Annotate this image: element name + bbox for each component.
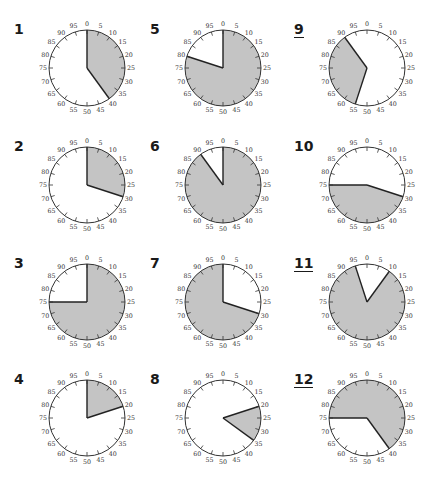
tick-label: 35 [399,324,407,331]
tick-label: 95 [69,256,77,263]
tick-label: 50 [219,458,227,465]
tick-label: 35 [255,90,263,97]
tick-label: 45 [233,223,241,230]
tick-label: 65 [47,90,55,97]
tick-label: 60 [337,450,345,457]
tick-label: 90 [337,146,345,153]
tick-label: 45 [97,340,105,347]
tick-label: 95 [205,22,213,29]
dial-graphic: 05101520253035404550556065707580859095 [14,139,159,257]
tick-label: 35 [255,440,263,447]
dial-12: 1205101520253035404550556065707580859095 [294,372,437,483]
tick-label: 40 [109,450,117,457]
tick-label: 75 [319,414,327,421]
tick-label: 30 [405,78,413,85]
tick-label: 70 [41,312,49,319]
tick-label: 50 [363,225,371,232]
tick-label: 70 [321,195,329,202]
tick-label: 45 [233,456,241,463]
tick-label: 60 [337,100,345,107]
tick-label: 70 [177,428,185,435]
tick-label: 25 [263,181,271,188]
tick-label: 30 [405,195,413,202]
tick-label: 90 [57,29,65,36]
tick-label: 20 [405,401,413,408]
tick-label: 80 [41,401,49,408]
tick-label: 20 [405,168,413,175]
tick-label: 75 [175,414,183,421]
tick-label: 70 [321,312,329,319]
tick-label: 15 [119,38,127,45]
tick-label: 80 [177,401,185,408]
tick-label: 55 [349,340,357,347]
tick-label: 10 [109,146,117,153]
tick-label: 20 [125,401,133,408]
tick-label: 45 [233,340,241,347]
tick-label: 15 [399,155,407,162]
tick-label: 25 [263,298,271,305]
tick-label: 40 [109,100,117,107]
tick-label: 45 [377,456,385,463]
tick-label: 15 [119,155,127,162]
tick-label: 5 [379,139,383,146]
tick-label: 70 [41,195,49,202]
tick-label: 55 [69,340,77,347]
tick-label: 65 [327,440,335,447]
tick-label: 70 [177,195,185,202]
tick-label: 5 [99,256,103,263]
tick-label: 80 [321,401,329,408]
tick-label: 20 [125,168,133,175]
tick-label: 60 [193,100,201,107]
tick-label: 0 [365,20,369,27]
tick-label: 65 [47,324,55,331]
tick-label: 90 [337,263,345,270]
tick-label: 15 [399,272,407,279]
tick-label: 55 [205,223,213,230]
tick-label: 15 [255,388,263,395]
tick-label: 10 [109,263,117,270]
tick-label: 20 [125,51,133,58]
tick-label: 25 [407,414,415,421]
dial-graphic: 05101520253035404550556065707580859095 [150,372,295,483]
tick-label: 80 [177,51,185,58]
tick-label: 35 [119,324,127,331]
tick-label: 60 [337,334,345,341]
dial-graphic: 05101520253035404550556065707580859095 [294,22,437,140]
tick-label: 80 [321,51,329,58]
tick-label: 85 [327,38,335,45]
tick-label: 45 [377,106,385,113]
tick-label: 75 [319,298,327,305]
tick-label: 45 [97,106,105,113]
tick-label: 10 [245,146,253,153]
tick-label: 55 [349,223,357,230]
tick-label: 95 [349,256,357,263]
tick-label: 25 [263,414,271,421]
tick-label: 25 [407,64,415,71]
tick-label: 45 [377,223,385,230]
tick-label: 85 [47,388,55,395]
tick-label: 30 [125,312,133,319]
tick-label: 90 [193,263,201,270]
tick-label: 60 [57,334,65,341]
tick-label: 95 [349,139,357,146]
dial-7: 705101520253035404550556065707580859095 [150,256,295,374]
tick-label: 20 [261,168,269,175]
dial-4: 405101520253035404550556065707580859095 [14,372,159,483]
tick-label: 30 [261,195,269,202]
tick-label: 20 [261,401,269,408]
tick-label: 45 [97,456,105,463]
tick-label: 80 [41,168,49,175]
tick-label: 65 [183,440,191,447]
tick-label: 0 [365,370,369,377]
tick-label: 35 [399,207,407,214]
tick-label: 50 [83,108,91,115]
dial-10: 1005101520253035404550556065707580859095 [294,139,437,257]
tick-label: 15 [399,38,407,45]
tick-label: 75 [175,181,183,188]
tick-label: 10 [389,29,397,36]
tick-label: 95 [69,22,77,29]
tick-label: 60 [193,217,201,224]
tick-label: 90 [193,146,201,153]
tick-label: 0 [221,254,225,261]
tick-label: 15 [255,38,263,45]
